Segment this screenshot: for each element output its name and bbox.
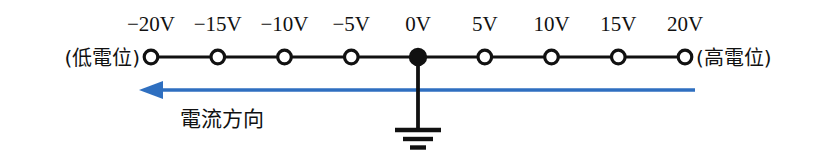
potential-diagram: −20V −15V −10V −5V 0V 5V 10V 15V 20V (低電… xyxy=(0,0,837,157)
figure-canvas: −20V −15V −10V −5V 0V 5V 10V 15V 20V (低電… xyxy=(0,0,837,157)
voltage-label-group: −20V −15V −10V −5V 0V 5V 10V 15V 20V xyxy=(127,12,703,36)
voltage-label-plus10: 10V xyxy=(533,12,569,36)
node-terminal-5[interactable] xyxy=(478,50,492,64)
node-terminal-2[interactable] xyxy=(278,50,292,64)
current-caption-group: 電流方向 xyxy=(180,107,264,131)
voltage-label-plus15: 15V xyxy=(600,12,636,36)
voltage-label-minus10: −10V xyxy=(260,12,308,36)
current-arrow-head xyxy=(139,81,163,99)
node-terminal-3[interactable] xyxy=(345,50,359,64)
node-terminal-4[interactable] xyxy=(410,49,425,64)
node-terminal-0[interactable] xyxy=(144,50,158,64)
node-terminal-6[interactable] xyxy=(545,50,559,64)
current-direction-label: 電流方向 xyxy=(180,107,264,131)
voltage-label-minus5: −5V xyxy=(333,12,371,36)
node-terminal-8[interactable] xyxy=(678,50,692,64)
low-potential-label: (低電位) xyxy=(64,46,140,70)
voltage-label-zero: 0V xyxy=(405,12,431,36)
voltage-label-minus20: −20V xyxy=(127,12,175,36)
voltage-label-plus5: 5V xyxy=(472,12,498,36)
node-terminal-1[interactable] xyxy=(211,50,225,64)
voltage-label-plus20: 20V xyxy=(667,12,703,36)
node-terminal-7[interactable] xyxy=(612,50,626,64)
high-potential-label: (高電位) xyxy=(696,46,772,70)
ground-symbol-group xyxy=(395,57,441,148)
voltage-label-minus15: −15V xyxy=(194,12,242,36)
